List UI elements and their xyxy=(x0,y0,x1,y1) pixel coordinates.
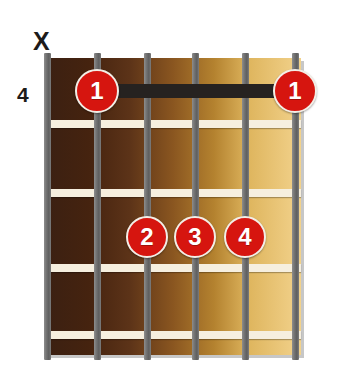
finger-dot-2: 2 xyxy=(126,216,168,258)
mute-marker-string-1: X xyxy=(33,29,50,54)
fret-line-3 xyxy=(45,264,301,272)
string-5 xyxy=(242,53,249,360)
string-3 xyxy=(144,53,151,360)
finger-dot-label: 3 xyxy=(188,225,201,249)
finger-dot-label: 4 xyxy=(238,225,251,249)
finger-dot-label: 1 xyxy=(288,79,301,103)
barre-fret-1 xyxy=(97,84,295,98)
string-1 xyxy=(44,53,51,360)
string-4 xyxy=(192,53,199,360)
finger-dot-3: 3 xyxy=(174,216,216,258)
fret-position-label: 4 xyxy=(17,84,29,105)
finger-dot-label: 2 xyxy=(140,225,153,249)
fret-line-1 xyxy=(45,120,301,128)
chord-diagram-canvas: X 4 1 1 2 3 4 xyxy=(0,0,341,377)
finger-dot-1-right: 1 xyxy=(273,69,317,113)
finger-dot-4: 4 xyxy=(224,216,266,258)
fret-line-4 xyxy=(45,331,301,339)
fret-line-2 xyxy=(45,189,301,197)
finger-dot-label: 1 xyxy=(90,79,103,103)
finger-dot-1-left: 1 xyxy=(75,69,119,113)
